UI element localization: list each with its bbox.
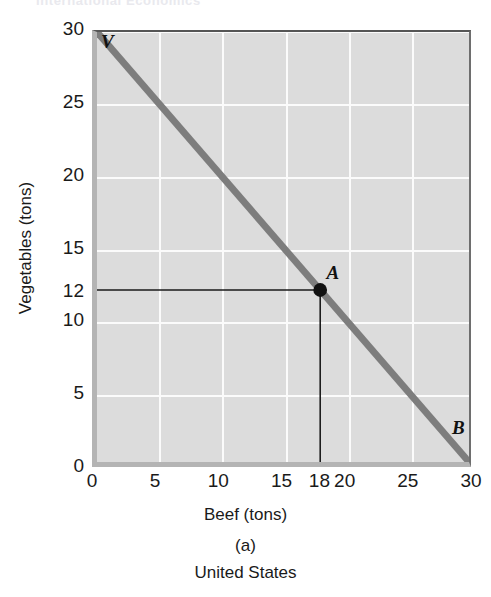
chart-overlay [97,32,469,462]
y-tick-5: 5 [73,382,84,404]
x-tick-10: 10 [208,470,229,492]
y-tick-12: 12 [63,280,84,302]
x-tick-30: 30 [460,470,481,492]
chart-plot-area: AVB [92,30,471,467]
y-tick-30: 30 [63,18,84,40]
y-tick-20: 20 [63,164,84,186]
endpoint-label-v: V [101,32,114,53]
droplines-group [97,290,320,462]
x-tick-0: 0 [87,470,98,492]
panel-letter-caption: (a) [0,536,491,556]
x-tick-20: 20 [334,470,355,492]
point-label-a: A [326,262,339,284]
x-tick-18: 18 [309,470,330,492]
frontier-line [97,32,469,462]
chart-title-caption: United States [0,563,491,583]
y-tick-25: 25 [63,91,84,113]
x-axis-title: Beef (tons) [0,505,491,525]
y-tick-10: 10 [63,309,84,331]
y-tick-15: 15 [63,237,84,259]
chart-plot-inner: AVB [97,32,469,462]
frontier-line-group [97,32,469,462]
x-tick-15: 15 [271,470,292,492]
x-tick-25: 25 [397,470,418,492]
running-head: International Economics [36,0,366,7]
data-point-marker [313,283,327,297]
x-tick-5: 5 [150,470,161,492]
data-points-group [313,283,327,297]
x-axis-tick-labels: 05101518202530 [0,470,491,496]
y-axis-title: Vegetables (tons) [16,158,36,338]
endpoint-label-b: B [452,417,465,439]
